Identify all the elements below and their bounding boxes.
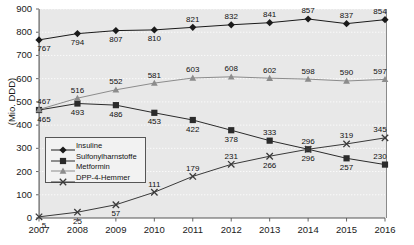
point-label: 493 bbox=[64, 108, 90, 117]
point-label: 333 bbox=[257, 128, 283, 137]
legend-item-label: Metformin bbox=[76, 162, 110, 173]
point-label: 422 bbox=[180, 125, 206, 134]
point-label: 602 bbox=[257, 66, 283, 75]
point-label: 486 bbox=[103, 110, 129, 119]
point-label: 57 bbox=[103, 209, 129, 218]
point-label: 296 bbox=[295, 154, 321, 163]
cross-marker-icon bbox=[50, 173, 76, 183]
point-label: 598 bbox=[295, 67, 321, 76]
point-label: 821 bbox=[180, 15, 206, 24]
point-label: 345 bbox=[367, 125, 393, 134]
point-label: 857 bbox=[295, 6, 321, 15]
point-label: 231 bbox=[218, 152, 244, 161]
point-label: 465 bbox=[31, 115, 57, 124]
point-label: 854 bbox=[367, 7, 393, 16]
legend-item-dpp-4-hemmer[interactable]: DPP-4-Hemmer bbox=[50, 173, 145, 184]
point-label: 597 bbox=[367, 67, 393, 76]
point-label: 552 bbox=[103, 77, 129, 86]
triangle-marker-icon bbox=[50, 162, 76, 172]
legend-item-metformin[interactable]: Metformin bbox=[50, 162, 145, 173]
diamond-marker-icon bbox=[50, 141, 76, 151]
point-label: 841 bbox=[257, 10, 283, 19]
point-label: 581 bbox=[141, 71, 167, 80]
point-label: 453 bbox=[141, 117, 167, 126]
line-chart: (Mio. DDD) 9008007006005004003002001000 … bbox=[0, 0, 414, 245]
point-label: 810 bbox=[141, 34, 167, 43]
point-label: 807 bbox=[103, 35, 129, 44]
point-label: 230 bbox=[367, 152, 393, 161]
point-label: 5 bbox=[31, 221, 57, 230]
legend-item-label: DPP-4-Hemmer bbox=[76, 173, 130, 184]
point-label: 467 bbox=[31, 97, 57, 106]
point-label: 179 bbox=[180, 164, 206, 173]
point-label: 767 bbox=[31, 44, 57, 53]
legend-item-label: Sulfonylharnstoffe bbox=[76, 152, 137, 163]
legend-item-insuline[interactable]: Insuline bbox=[50, 141, 145, 152]
chart-legend: InsulineSulfonylharnstoffeMetforminDPP-4… bbox=[45, 137, 146, 183]
point-label: 837 bbox=[334, 11, 360, 20]
point-label: 319 bbox=[334, 131, 360, 140]
point-label: 296 bbox=[295, 137, 321, 146]
legend-item-label: Insuline bbox=[76, 141, 102, 152]
point-label: 266 bbox=[257, 161, 283, 170]
legend-item-sulfonylharnstoffe[interactable]: Sulfonylharnstoffe bbox=[50, 152, 145, 163]
point-label: 794 bbox=[64, 38, 90, 47]
point-label: 25 bbox=[64, 217, 90, 226]
square-marker-icon bbox=[50, 152, 76, 162]
chart-series-layer bbox=[0, 0, 414, 245]
point-label: 590 bbox=[334, 68, 360, 77]
point-label: 832 bbox=[218, 12, 244, 21]
point-label: 516 bbox=[64, 86, 90, 95]
point-label: 608 bbox=[218, 64, 244, 73]
point-label: 603 bbox=[180, 65, 206, 74]
point-label: 257 bbox=[334, 163, 360, 172]
point-label: 378 bbox=[218, 135, 244, 144]
